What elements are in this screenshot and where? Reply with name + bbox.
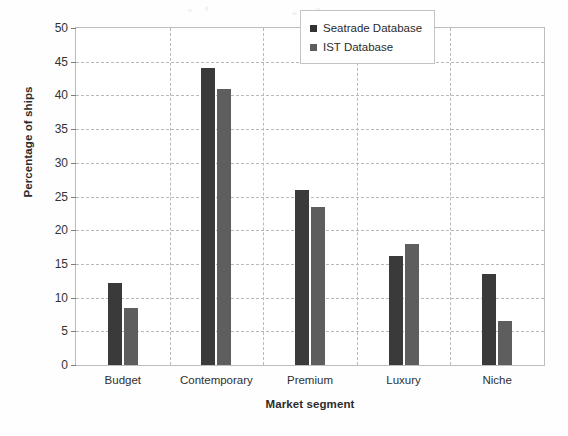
bar [295, 190, 309, 365]
y-axis-tick-label: 50 [55, 21, 68, 35]
scan-artifact [292, 12, 297, 15]
y-axis-tick-label: 45 [55, 55, 68, 69]
legend-swatch-icon [310, 25, 317, 32]
bar [124, 308, 138, 365]
y-axis-tick-label: 20 [55, 223, 68, 237]
legend-swatch-icon [310, 44, 317, 51]
x-axis-category-label: Niche [482, 374, 511, 386]
bar-group: Niche [450, 28, 544, 365]
bar-group: Budget [76, 28, 170, 365]
bar [498, 321, 512, 365]
bar-group: Luxury [357, 28, 451, 365]
bar [482, 274, 496, 365]
legend-label: Seatrade Database [323, 22, 422, 34]
bar [389, 256, 403, 365]
y-axis-tick [71, 365, 76, 366]
chart-figure: Percentage of ships 05101520253035404550… [0, 0, 568, 436]
x-axis-category-label: Budget [105, 374, 141, 386]
bar [201, 68, 215, 365]
y-axis-tick-label: 40 [55, 88, 68, 102]
y-axis-tick-label: 5 [61, 324, 68, 338]
y-axis-tick-label: 30 [55, 156, 68, 170]
bar [405, 244, 419, 365]
x-axis-category-label: Luxury [386, 374, 421, 386]
legend-item-ist: IST Database [310, 41, 425, 53]
bar [311, 207, 325, 365]
y-axis-tick-label: 0 [61, 358, 68, 372]
y-axis-tick-label: 25 [55, 190, 68, 204]
bar-group: Premium [263, 28, 357, 365]
y-axis-title: Percentage of ships [22, 52, 34, 232]
x-axis-category-label: Contemporary [180, 374, 253, 386]
plot-area: 05101520253035404550BudgetContemporaryPr… [75, 27, 545, 366]
legend-label: IST Database [323, 41, 393, 53]
bar [108, 283, 122, 365]
legend-item-seatrade: Seatrade Database [310, 22, 425, 34]
bar [217, 89, 231, 365]
bar-group: Contemporary [170, 28, 264, 365]
x-axis-title: Market segment [75, 398, 545, 410]
y-axis-tick-label: 10 [55, 291, 68, 305]
x-axis-category-label: Premium [287, 374, 333, 386]
scan-artifact [205, 6, 208, 11]
y-axis-tick-label: 15 [55, 257, 68, 271]
y-axis-tick-label: 35 [55, 122, 68, 136]
chart-legend: Seatrade Database IST Database [300, 10, 435, 64]
scan-artifact [188, 9, 192, 12]
